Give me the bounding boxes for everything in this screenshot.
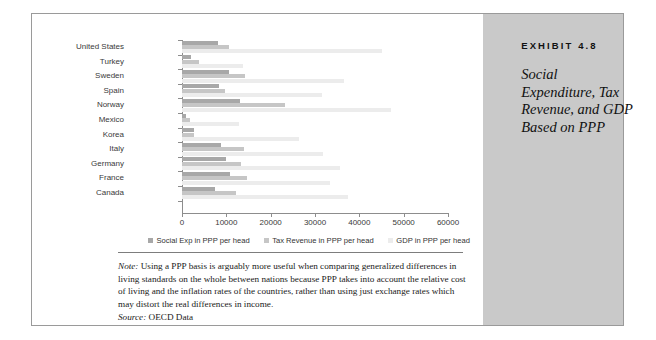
bar — [182, 152, 323, 156]
bar — [182, 191, 236, 195]
exhibit-title: Social Expenditure, Tax Revenue, and GDP… — [521, 66, 633, 136]
legend-item: Tax Revenue in PPP per head — [264, 236, 374, 245]
bar — [182, 176, 247, 180]
value-tick — [315, 213, 316, 217]
bar — [182, 181, 330, 185]
bar — [182, 93, 322, 97]
legend-swatch — [388, 238, 393, 243]
category-label: Sweden — [32, 69, 129, 84]
value-tick-label: 10000 — [201, 218, 251, 227]
category-label: United States — [32, 40, 129, 55]
bar — [182, 64, 243, 68]
exhibit-frame: United StatesTurkeySwedenSpainNorwayMexi… — [31, 13, 624, 326]
legend-label: Tax Revenue in PPP per head — [272, 236, 374, 245]
bar-group — [182, 171, 448, 186]
bar — [182, 99, 240, 103]
value-tick — [359, 213, 360, 217]
category-label: Korea — [32, 128, 129, 143]
note-divider — [118, 252, 463, 253]
source-text: Source: OECD Data — [118, 311, 470, 324]
bar-group — [182, 40, 448, 55]
bar — [182, 74, 245, 78]
bar — [182, 84, 219, 88]
legend-swatch — [264, 238, 269, 243]
bar-group — [182, 142, 448, 157]
value-tick — [182, 213, 183, 217]
bar — [182, 114, 186, 118]
legend-item: GDP in PPP per head — [388, 236, 470, 245]
value-tick-label: 0 — [157, 218, 207, 227]
bar — [182, 162, 241, 166]
bar — [182, 166, 340, 170]
category-label: Mexico — [32, 113, 129, 128]
source-body: OECD Data — [146, 312, 193, 322]
bar-group — [182, 157, 448, 172]
bar — [182, 45, 229, 49]
value-tick-label: 50000 — [379, 218, 429, 227]
category-axis-labels: United StatesTurkeySwedenSpainNorwayMexi… — [32, 40, 129, 201]
bar — [182, 172, 230, 176]
category-label: France — [32, 171, 129, 186]
bar — [182, 60, 199, 64]
category-label: Spain — [32, 84, 129, 99]
category-label: Turkey — [32, 55, 129, 70]
bar-group — [182, 128, 448, 143]
source-prefix: Source: — [118, 312, 146, 322]
bar — [182, 122, 239, 126]
bar-group — [182, 69, 448, 84]
legend-swatch — [148, 238, 153, 243]
bar — [182, 55, 191, 59]
legend-item: Social Exp in PPP per head — [148, 236, 250, 245]
exhibit-caption-panel: EXHIBIT 4.8 Social Expenditure, Tax Reve… — [483, 14, 623, 325]
legend-label: GDP in PPP per head — [396, 236, 470, 245]
legend-label: Social Exp in PPP per head — [157, 236, 250, 245]
bar — [182, 137, 299, 141]
bar — [182, 147, 244, 151]
exhibit-caption-inner: EXHIBIT 4.8 Social Expenditure, Tax Reve… — [501, 14, 623, 325]
bar — [182, 89, 225, 93]
bar-group — [182, 84, 448, 99]
plot-area — [182, 40, 448, 201]
value-tick — [448, 213, 449, 217]
bar-group — [182, 113, 448, 128]
bar — [182, 41, 218, 45]
note-body: Using a PPP basis is arguably more usefu… — [118, 261, 466, 309]
bar — [182, 103, 285, 107]
category-label: Italy — [32, 142, 129, 157]
bar-group — [182, 98, 448, 113]
bar — [182, 133, 194, 137]
chart-legend: Social Exp in PPP per headTax Revenue in… — [148, 236, 470, 245]
exhibit-left-column: United StatesTurkeySwedenSpainNorwayMexi… — [32, 14, 483, 325]
value-tick-label: 30000 — [290, 218, 340, 227]
value-tick — [226, 213, 227, 217]
exhibit-number: EXHIBIT 4.8 — [521, 40, 631, 51]
bar — [182, 79, 344, 83]
category-label: Norway — [32, 98, 129, 113]
bar — [182, 108, 391, 112]
value-tick — [271, 213, 272, 217]
bar — [182, 195, 348, 199]
bar-group — [182, 55, 448, 70]
bar — [182, 143, 221, 147]
bar — [182, 128, 194, 132]
screenshot-root: United StatesTurkeySwedenSpainNorwayMexi… — [0, 0, 656, 340]
category-label: Germany — [32, 157, 129, 172]
value-tick-label: 60000 — [423, 218, 473, 227]
bar — [182, 157, 226, 161]
bar — [182, 118, 190, 122]
bar — [182, 187, 215, 191]
category-label: Canada — [32, 186, 129, 201]
bar — [182, 49, 382, 53]
note-prefix: Note: — [118, 261, 138, 271]
bar — [182, 70, 229, 74]
value-tick — [404, 213, 405, 217]
value-tick-label: 40000 — [334, 218, 384, 227]
bar-group — [182, 186, 448, 201]
bar-chart: United StatesTurkeySwedenSpainNorwayMexi… — [32, 14, 484, 229]
note-text: Note: Using a PPP basis is arguably more… — [118, 260, 470, 310]
value-tick-label: 20000 — [246, 218, 296, 227]
